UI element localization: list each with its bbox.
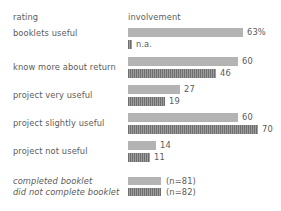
bar-value-label: 46 [220,68,231,78]
bar-value-label: 14 [160,140,171,150]
bar-did-not-complete-booklet [128,40,132,49]
bar-value-label: 60 [242,112,253,122]
legend-item: did not complete booklet(n=82) [0,187,281,197]
bar-completed-booklet [128,141,156,150]
bar-value-label: 60 [242,56,253,66]
bar-value-label: 63% [247,27,266,37]
legend-swatch [128,188,161,196]
bar-value-label: n.a. [136,39,152,49]
rating-group-label: project slightly useful [13,118,104,128]
legend-item-count: (n=81) [166,176,196,186]
rating-column-header: rating [13,12,38,22]
involvement-column-header: involvement [128,12,181,22]
bar-did-not-complete-booklet [128,125,258,134]
legend-item-label: completed booklet [13,176,92,186]
column-headers: rating involvement [0,12,281,26]
bar-completed-booklet [128,85,180,94]
bar-value-label: 11 [154,152,165,162]
rating-group-label: booklets useful [13,28,78,38]
rating-group-label: know more about return [13,62,116,72]
bar-did-not-complete-booklet [128,69,216,78]
bar-completed-booklet [128,28,243,37]
bar-completed-booklet [128,113,238,122]
bar-did-not-complete-booklet [128,153,150,162]
rating-group-label: project very useful [13,90,92,100]
bar-value-label: 19 [169,96,180,106]
involvement-bar-chart: rating involvement booklets useful63%n.a… [0,0,281,211]
bar-did-not-complete-booklet [128,97,165,106]
rating-group-label: project not useful [13,146,88,156]
legend-swatch [128,177,161,185]
bar-completed-booklet [128,57,238,66]
bar-value-label: 70 [262,124,273,134]
legend-item: completed booklet(n=81) [0,176,281,186]
legend-item-count: (n=82) [166,187,196,197]
legend-item-label: did not complete booklet [13,187,119,197]
bar-value-label: 27 [184,84,195,94]
